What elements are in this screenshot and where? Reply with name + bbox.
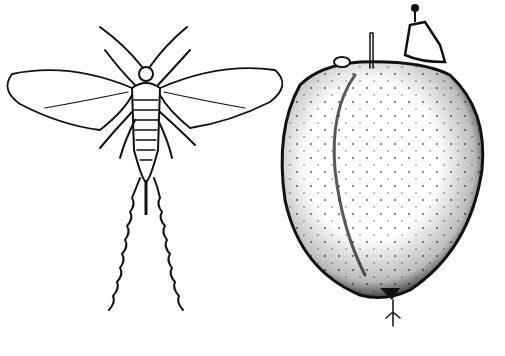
antenna-right [149, 27, 187, 68]
insect-figure [8, 27, 283, 310]
wing-right [160, 68, 282, 128]
antenna-left [100, 27, 143, 68]
body-segments [134, 100, 158, 160]
leg-hind-right [158, 120, 172, 158]
wing-left-vein [45, 92, 128, 108]
cercus-left [109, 178, 140, 310]
illustration-svg [0, 0, 505, 356]
illustration-canvas [0, 0, 505, 356]
cercus-right [154, 178, 183, 310]
gall-stem [405, 22, 445, 62]
gall-bud [334, 57, 350, 67]
insect-body [132, 83, 160, 182]
leg-mid-left [100, 112, 132, 148]
leg-front-right [158, 50, 190, 85]
insect-head [139, 67, 153, 81]
wing-left [8, 70, 133, 130]
gall-root [386, 300, 400, 326]
gall-figure [282, 4, 483, 326]
wing-right-vein [164, 92, 245, 108]
